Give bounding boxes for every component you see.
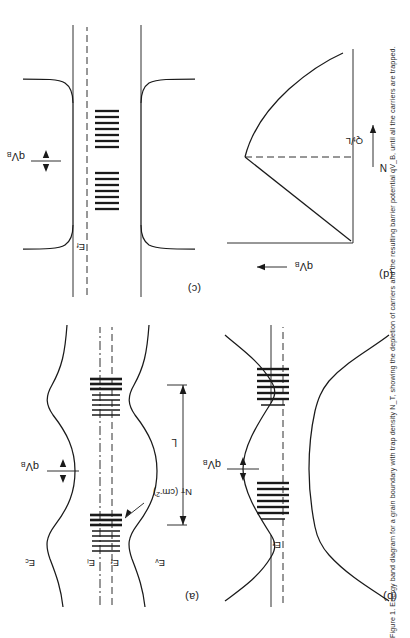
panel-c-bands (19, 23, 199, 299)
label-qvb-d: qVB (295, 261, 313, 273)
panel-a-bands (17, 321, 197, 611)
label-qvb-b: qVB (203, 459, 221, 471)
panel-b-bands (219, 321, 395, 611)
panel-d-plot (221, 35, 393, 285)
trap-states-left-b (257, 483, 289, 519)
panel-d: Qt/L N qVB (d) (221, 35, 393, 285)
panel-a: Ec Ei Ef Ev qVB L NT (cm-2) (a) (17, 321, 197, 611)
decaying-branch (245, 53, 343, 157)
panel-b: Ef qVB (b) (219, 321, 395, 611)
label-ev: Ev (155, 558, 165, 569)
figure-caption-strip: Figure 1. Energy band diagram for a grai… (388, 0, 410, 638)
grain-length-indicator (167, 385, 187, 525)
figure-caption: Figure 1. Energy band diagram for a grai… (388, 0, 398, 638)
label-ef-c: Ef (77, 242, 85, 253)
label-ei: Ei (87, 558, 95, 569)
panel-a-caption: (a) (185, 591, 199, 603)
figure-page: Ec Ei Ef Ev qVB L NT (cm-2) (a) (0, 0, 410, 638)
label-qvb-c: qVB (7, 151, 25, 163)
x-axis-arrow (370, 125, 376, 167)
label-n-axis: N (380, 162, 387, 173)
trap-states-left-c (95, 173, 119, 209)
label-nt: NT (cm-2) (153, 487, 192, 498)
label-ef: Ef (111, 558, 119, 569)
trap-states-right-b (257, 369, 289, 405)
panel-c: Ef qVB (c) (19, 23, 199, 299)
rotated-figure-canvas: Ec Ei Ef Ev qVB L NT (cm-2) (a) (5, 9, 405, 629)
label-qvb-a: qVB (21, 461, 39, 473)
label-grain-length: L (171, 437, 177, 448)
barrier-indicator-b (227, 457, 259, 481)
panel-c-caption: (c) (188, 283, 201, 295)
label-qt-over-l: Qt/L (346, 136, 363, 147)
barrier-indicator-c (31, 150, 61, 172)
trap-density-pointer (125, 503, 144, 518)
label-ef-b: Ef (273, 540, 281, 551)
label-ec: Ec (25, 558, 35, 569)
y-axis-arrow (257, 264, 287, 270)
trap-states-right-c (95, 111, 119, 147)
rising-branch (245, 157, 351, 241)
